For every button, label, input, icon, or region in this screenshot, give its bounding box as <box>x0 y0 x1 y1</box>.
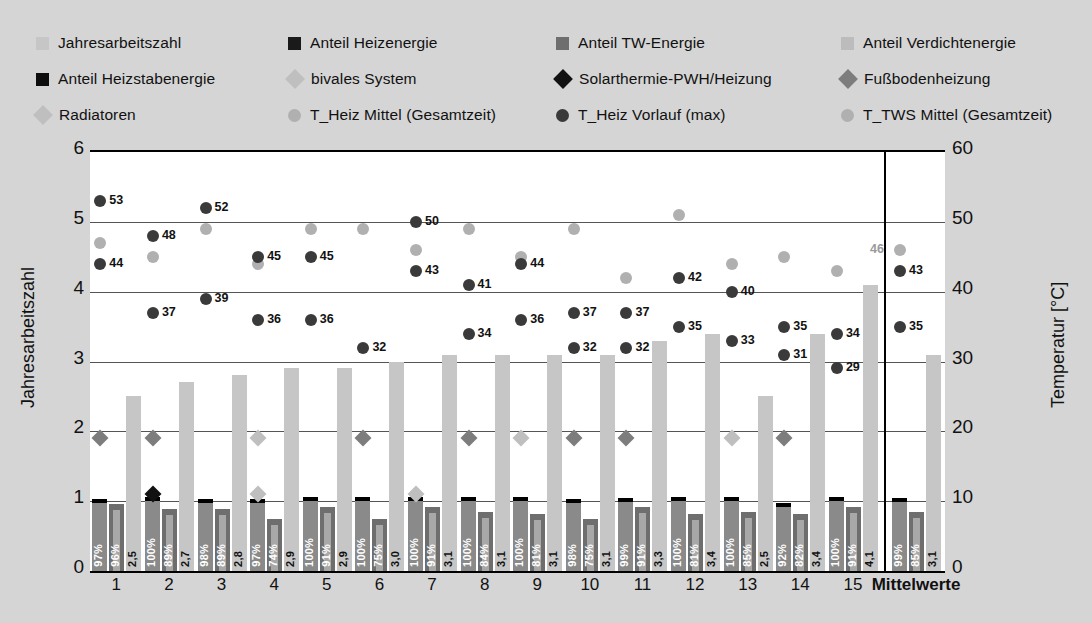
legend-item-3[interactable]: Anteil Verdichtenergie <box>841 26 1016 60</box>
legend-item-1[interactable]: Anteil Heizenergie <box>288 26 438 60</box>
bar-jahresarbeitszahl-14 <box>810 334 825 571</box>
bar-label-heizenergie-13: 100% <box>725 538 736 567</box>
bar-heizstabenergie-cap-10 <box>566 499 581 503</box>
bar-heizstabenergie-cap-13 <box>724 497 739 501</box>
bar-label-jaz-16: 3,1 <box>927 551 938 567</box>
data-point-light <box>357 223 369 235</box>
data-point-label: 35 <box>688 319 702 333</box>
data-point-dark <box>147 230 159 242</box>
bar-label-tw-energie-9: 81% <box>531 544 542 567</box>
diamond-marker-light <box>513 430 530 447</box>
data-point-light <box>410 244 422 256</box>
legend-item-4[interactable]: Anteil Heizstabenergie <box>36 62 215 96</box>
bar-heizstabenergie-cap-5 <box>303 497 318 501</box>
bar-jahresarbeitszahl-5 <box>337 368 352 571</box>
square-marker-icon <box>288 37 301 50</box>
bar-label-heizenergie-6: 100% <box>356 538 367 567</box>
data-point-dark <box>778 321 790 333</box>
bar-label-jaz-9: 3,1 <box>548 551 559 567</box>
bar-label-tw-energie-13: 85% <box>742 544 753 567</box>
bar-label-jaz-4: 2,9 <box>285 551 296 567</box>
data-point-label: 36 <box>267 312 281 326</box>
data-point-light <box>778 251 790 263</box>
data-point-dark <box>620 307 632 319</box>
data-point-dark <box>673 272 685 284</box>
legend-item-5[interactable]: bivales System <box>288 62 417 96</box>
bar-heizstabenergie-cap-11 <box>618 498 633 502</box>
data-point-label: 34 <box>846 326 860 340</box>
legend-item-11[interactable]: T_TWS Mittel (Gesamtzeit) <box>841 98 1052 132</box>
data-point-label: 37 <box>162 305 176 319</box>
y-tick-right-50: 50 <box>952 207 992 229</box>
y-axis-left-title: Jahresarbeitszahl <box>18 267 39 408</box>
bar-heizstabenergie-cap-8 <box>461 497 476 501</box>
circle-marker-icon <box>556 109 569 122</box>
bar-jahresarbeitszahl-1 <box>126 396 141 571</box>
data-point-light <box>305 223 317 235</box>
legend-item-6[interactable]: Solarthermie-PWH/Heizung <box>556 62 772 96</box>
y-axis-right-title: Temperatur [°C] <box>1048 282 1069 408</box>
bar-jahresarbeitszahl-10 <box>600 355 615 571</box>
legend-item-9[interactable]: T_Heiz Mittel (Gesamtzeit) <box>288 98 496 132</box>
data-point-light <box>200 223 212 235</box>
data-point-dark <box>200 293 212 305</box>
bar-heizstabenergie-cap-14 <box>776 503 791 507</box>
data-point-label: 36 <box>530 312 544 326</box>
plot-area-wrapper: Jahresarbeitszahl Temperatur [°C] 97%96%… <box>0 140 1092 610</box>
bar-label-heizenergie-8: 100% <box>462 538 473 567</box>
bar-label-heizenergie-15: 100% <box>830 538 841 567</box>
legend-item-7[interactable]: Fußbodenheizung <box>841 62 990 96</box>
data-point-dark <box>94 195 106 207</box>
data-point-label: 50 <box>425 214 439 228</box>
data-point-label: 43 <box>909 263 923 277</box>
data-point-dark <box>305 314 317 326</box>
bar-heizstabenergie-cap-15 <box>829 497 844 501</box>
legend-item-8[interactable]: Radiatoren <box>36 98 136 132</box>
data-point-label: 36 <box>320 312 334 326</box>
bar-label-jaz-7: 3,1 <box>443 551 454 567</box>
bar-jahresarbeitszahl-16 <box>926 355 941 571</box>
bar-label-heizenergie-1: 97% <box>93 544 104 567</box>
bar-label-tw-energie-7: 91% <box>426 544 437 567</box>
bar-label-tw-energie-5: 91% <box>321 544 332 567</box>
diamond-marker-light <box>723 430 740 447</box>
square-marker-icon <box>556 37 569 50</box>
bar-label-tw-energie-11: 91% <box>636 544 647 567</box>
y-tick-left-4: 4 <box>50 277 84 299</box>
bar-label-jaz-15: 4,1 <box>864 551 875 567</box>
data-point-label: 41 <box>478 277 492 291</box>
circle-marker-icon <box>288 109 301 122</box>
bar-label-heizenergie-16: 99% <box>893 544 904 567</box>
diamond-marker-dark <box>460 430 477 447</box>
y-tick-left-2: 2 <box>50 416 84 438</box>
diamond-marker-icon <box>553 69 573 89</box>
data-point-dark <box>673 321 685 333</box>
y-tick-left-5: 5 <box>50 207 84 229</box>
legend-item-10[interactable]: T_Heiz Vorlauf (max) <box>556 98 726 132</box>
data-point-light <box>94 237 106 249</box>
square-marker-icon <box>841 37 854 50</box>
bar-label-jaz-1: 2,5 <box>127 551 138 567</box>
bar-label-heizenergie-12: 100% <box>672 538 683 567</box>
data-point-label: 44 <box>530 256 544 270</box>
legend-item-2[interactable]: Anteil TW-Energie <box>556 26 705 60</box>
legend-label: Anteil Heizenergie <box>310 34 438 52</box>
legend-row: JahresarbeitszahlAnteil HeizenergieAntei… <box>36 26 1056 60</box>
bar-heizstabenergie-cap-9 <box>513 497 528 501</box>
legend-label: Jahresarbeitszahl <box>58 34 181 52</box>
bar-jahresarbeitszahl-8 <box>495 355 510 571</box>
bar-label-tw-energie-6: 75% <box>373 544 384 567</box>
data-point-dark <box>463 328 475 340</box>
data-point-label: 48 <box>162 228 176 242</box>
bar-jahresarbeitszahl-6 <box>389 362 404 572</box>
bar-jahresarbeitszahl-12 <box>705 334 720 571</box>
data-point-dark <box>726 335 738 347</box>
data-point-light <box>831 265 843 277</box>
data-point-label: 37 <box>583 305 597 319</box>
data-point-label: 32 <box>635 340 649 354</box>
diamond-marker-dark <box>776 430 793 447</box>
legend-item-0[interactable]: Jahresarbeitszahl <box>36 26 181 60</box>
bar-label-heizenergie-3: 98% <box>199 544 210 567</box>
data-point-label: 39 <box>215 291 229 305</box>
bar-label-tw-energie-4: 74% <box>268 544 279 567</box>
